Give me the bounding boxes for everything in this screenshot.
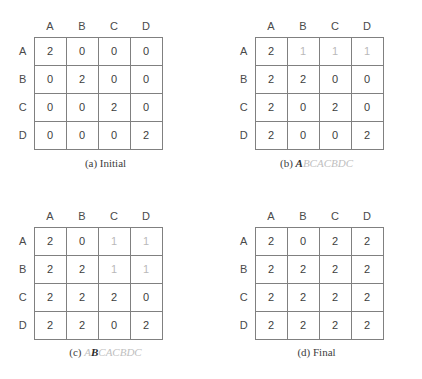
caption-index: (a) <box>85 157 97 169</box>
column-header-c: C <box>319 16 351 37</box>
row-header-d: D <box>233 311 255 339</box>
matrix-a-wrap: ABCDA2000B0200C0020D0002 <box>12 16 200 150</box>
cell-b-c: 0 <box>319 65 351 93</box>
cell-a-a: 2 <box>34 37 66 65</box>
cell-a-c: 0 <box>98 37 130 65</box>
cell-c-b: 2 <box>66 283 98 311</box>
matrix-header-row: ABCD <box>12 16 162 37</box>
column-header-a: A <box>34 206 66 227</box>
cell-a-a: 2 <box>255 37 287 65</box>
cell-c-d: 2 <box>351 283 383 311</box>
cell-a-b: 1 <box>287 37 319 65</box>
column-header-d: D <box>351 206 383 227</box>
cell-d-d: 2 <box>130 121 162 149</box>
cell-a-b: 0 <box>66 37 98 65</box>
cell-d-c: 2 <box>319 311 351 339</box>
cell-c-a: 2 <box>255 283 287 311</box>
row-header-a: A <box>233 37 255 65</box>
caption-sequence: ABCACBDC <box>296 157 353 169</box>
cell-a-c: 2 <box>319 227 351 255</box>
cell-a-a: 2 <box>34 227 66 255</box>
row-header-b: B <box>233 255 255 283</box>
matrix-row: B2211 <box>12 255 162 283</box>
matrix-d: ABCDA2022B2222C2222D2222 <box>233 206 384 340</box>
cell-a-c: 1 <box>319 37 351 65</box>
cell-b-a: 2 <box>255 255 287 283</box>
row-header-b: B <box>12 65 34 93</box>
cell-d-c: 0 <box>98 311 130 339</box>
caption-c: (c) ABCACBDC <box>0 346 211 358</box>
column-header-c: C <box>319 206 351 227</box>
caption-sequence-suffix: BCACBDC <box>303 157 353 169</box>
row-header-a: A <box>12 37 34 65</box>
cell-d-a: 0 <box>34 121 66 149</box>
caption-index: (c) <box>69 346 81 358</box>
caption-label: Final <box>313 346 336 358</box>
cell-d-c: 0 <box>319 121 351 149</box>
matrix-d-wrap: ABCDA2022B2222C2222D2222 <box>233 206 421 340</box>
cell-a-d: 0 <box>130 37 162 65</box>
cell-b-d: 1 <box>130 255 162 283</box>
matrix-row: A2011 <box>12 227 162 255</box>
cell-b-d: 0 <box>351 65 383 93</box>
panel-b: ABCDA2111B2200C2020D2002 (b) ABCACBDC <box>211 0 422 189</box>
matrix-corner <box>233 206 255 227</box>
cell-c-d: 0 <box>130 283 162 311</box>
cell-b-c: 1 <box>98 255 130 283</box>
matrix-header-row: ABCD <box>233 206 383 227</box>
caption-a: (a) Initial <box>0 157 211 169</box>
cell-a-d: 1 <box>130 227 162 255</box>
cell-d-b: 0 <box>287 121 319 149</box>
row-header-d: D <box>12 121 34 149</box>
column-header-b: B <box>287 206 319 227</box>
cell-a-b: 0 <box>287 227 319 255</box>
matrix-c: ABCDA2011B2211C2220D2202 <box>12 206 163 340</box>
caption-sequence-prefix: A <box>84 346 91 358</box>
cell-b-a: 2 <box>34 255 66 283</box>
caption-sequence-suffix: CACBDC <box>98 346 141 358</box>
cell-c-c: 2 <box>319 283 351 311</box>
cell-d-a: 2 <box>255 121 287 149</box>
cell-d-a: 2 <box>34 311 66 339</box>
cell-c-d: 0 <box>351 93 383 121</box>
matrix-a: ABCDA2000B0200C0020D0002 <box>12 16 163 150</box>
cell-b-b: 2 <box>66 65 98 93</box>
cell-c-c: 2 <box>98 283 130 311</box>
cell-c-d: 0 <box>130 93 162 121</box>
cell-a-d: 1 <box>351 37 383 65</box>
cell-b-b: 2 <box>66 255 98 283</box>
cell-a-c: 1 <box>98 227 130 255</box>
matrix-row: C2220 <box>12 283 162 311</box>
cell-a-a: 2 <box>255 227 287 255</box>
matrix-row: C0020 <box>12 93 162 121</box>
matrix-b-wrap: ABCDA2111B2200C2020D2002 <box>233 16 421 150</box>
matrix-row: A2111 <box>233 37 383 65</box>
column-header-d: D <box>351 16 383 37</box>
cell-b-c: 0 <box>98 65 130 93</box>
row-header-c: C <box>12 283 34 311</box>
caption-sequence: ABCACBDC <box>84 346 141 358</box>
column-header-b: B <box>287 16 319 37</box>
cell-d-d: 2 <box>351 121 383 149</box>
cell-a-d: 2 <box>351 227 383 255</box>
cell-b-b: 2 <box>287 65 319 93</box>
matrix-header-row: ABCD <box>233 16 383 37</box>
row-header-c: C <box>233 93 255 121</box>
matrix-row: D2202 <box>12 311 162 339</box>
matrix-row: C2020 <box>233 93 383 121</box>
matrix-row: D2002 <box>233 121 383 149</box>
caption-d: (d) Final <box>211 346 422 358</box>
cell-b-d: 0 <box>130 65 162 93</box>
column-header-d: D <box>130 206 162 227</box>
column-header-a: A <box>34 16 66 37</box>
cell-d-d: 2 <box>130 311 162 339</box>
row-header-a: A <box>233 227 255 255</box>
column-header-a: A <box>255 206 287 227</box>
matrix-row: B2200 <box>233 65 383 93</box>
matrix-row: B2222 <box>233 255 383 283</box>
row-header-b: B <box>12 255 34 283</box>
cell-d-b: 2 <box>66 311 98 339</box>
caption-index: (d) <box>297 346 310 358</box>
cell-d-a: 2 <box>255 311 287 339</box>
matrix-c-wrap: ABCDA2011B2211C2220D2202 <box>12 206 200 340</box>
